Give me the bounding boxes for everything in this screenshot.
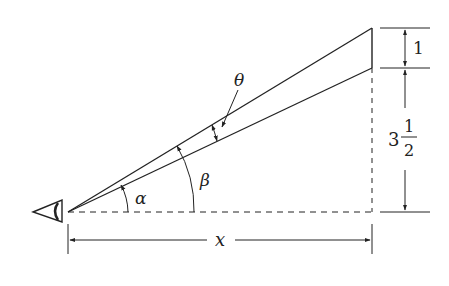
alpha-arc <box>121 185 128 212</box>
dim-lower-whole: 3 <box>388 129 399 150</box>
sight-line-bottom <box>68 68 372 212</box>
theta-leader <box>222 90 238 127</box>
dim-lower-numerator: 1 <box>404 117 414 136</box>
theta-arc <box>212 125 217 141</box>
sight-line-top <box>68 28 372 212</box>
dim-x-label: x <box>215 229 225 250</box>
alpha-label: α <box>135 188 147 208</box>
dim-lower-denominator: 2 <box>404 141 414 160</box>
eye-icon <box>33 200 62 222</box>
diagram-canvas: α β θ 1 3 1 2 x <box>0 0 449 286</box>
dim-upper-label: 1 <box>413 38 424 58</box>
theta-label: θ <box>234 70 244 90</box>
beta-label: β <box>199 170 210 190</box>
